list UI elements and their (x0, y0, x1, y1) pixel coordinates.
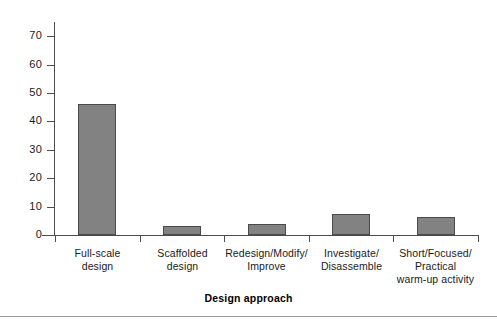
bar (78, 104, 116, 235)
y-axis-tick (47, 178, 55, 179)
y-axis-tick-label: 30 (2, 144, 42, 155)
category-label: Full-scale design (55, 247, 140, 273)
y-axis-tick (47, 207, 55, 208)
y-axis-tick-label: 20 (2, 172, 42, 183)
x-axis-tick (478, 235, 479, 242)
category-label: Short/Focused/ Practical warm-up activit… (393, 247, 478, 286)
x-axis-tick (224, 235, 225, 242)
x-axis-tick (140, 235, 141, 242)
y-axis-tick (47, 150, 55, 151)
x-axis-tick (393, 235, 394, 242)
y-axis-tick (47, 235, 55, 236)
y-axis-tick-label: 70 (2, 30, 42, 41)
bar (163, 226, 201, 235)
y-axis-tick-label: 0 (2, 229, 42, 240)
category-label: Scaffolded design (140, 247, 225, 273)
x-axis-tick (309, 235, 310, 242)
bar-chart-figure: 010203040506070 Full-scale designScaffol… (0, 0, 497, 328)
y-axis-tick (47, 65, 55, 66)
y-axis-tick-label: 40 (2, 115, 42, 126)
x-axis-title: Design approach (0, 292, 497, 304)
y-axis-tick-label: 50 (2, 87, 42, 98)
category-label: Investigate/ Disassemble (309, 247, 394, 273)
bar (417, 217, 455, 235)
y-axis-tick-label: 60 (2, 59, 42, 70)
y-axis-line (54, 22, 55, 236)
x-axis-tick (55, 235, 56, 242)
y-axis-tick (47, 36, 55, 37)
category-label: Redesign/Modify/ Improve (224, 247, 309, 273)
bottom-divider (0, 316, 497, 317)
bar (248, 224, 286, 235)
y-axis-tick (47, 121, 55, 122)
y-axis-tick (47, 93, 55, 94)
y-axis-tick-label: 10 (2, 201, 42, 212)
bar (332, 214, 370, 235)
x-axis-line (42, 235, 478, 236)
